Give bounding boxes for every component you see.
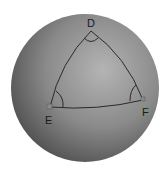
vertex-f-marker (141, 97, 145, 101)
vertex-label-f: F (142, 106, 149, 118)
vertex-label-e: E (45, 114, 52, 126)
sphere (11, 14, 159, 162)
spherical-triangle-diagram: D E F (0, 0, 168, 173)
vertex-label-d: D (87, 17, 95, 29)
vertex-e-marker (47, 104, 52, 109)
